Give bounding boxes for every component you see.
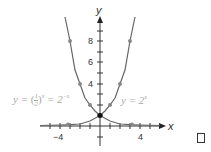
- corner-marker-box: [197, 133, 205, 143]
- curve-half-pow-x: [65, 17, 160, 126]
- x-axis-arrow-icon: [159, 123, 166, 129]
- exponential-graph: y x −4 4 4 6 8: [0, 0, 211, 152]
- equation-right: y = 2x: [121, 94, 147, 106]
- curve-2-pow-x: [40, 17, 135, 126]
- intersection-point: [98, 113, 103, 118]
- y-axis-arrow-icon: [97, 16, 103, 23]
- equation-left: y = (12)x = 2−x: [13, 93, 69, 108]
- tick-y4: 4: [88, 79, 93, 89]
- x-axis-label: x: [167, 120, 174, 132]
- tick-4: 4: [138, 132, 143, 142]
- tick-neg4: −4: [53, 132, 63, 142]
- y-axis-label: y: [95, 4, 103, 16]
- tick-y6: 6: [88, 57, 93, 67]
- tick-y8: 8: [88, 36, 93, 46]
